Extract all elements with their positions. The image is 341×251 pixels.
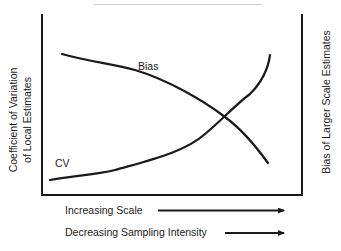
y-left-label-line1: Coefficient of Variation [7,68,19,173]
y-left-label-line2: of Local Estimates [21,77,33,163]
plot-frame [41,14,303,196]
x-axis-label-scale: Increasing Scale [65,204,143,216]
x-axis-label-sampling: Decreasing Sampling Intensity [65,226,208,238]
bias-label: Bias [138,60,158,72]
diagram-canvas: Bias CV Coefficient of Variation of Loca… [0,0,341,251]
bias-curve [62,54,268,163]
y-right-label: Bias of Larger Scale Estimates [320,30,332,174]
cv-curve [50,55,270,180]
cv-label: CV [55,157,70,169]
